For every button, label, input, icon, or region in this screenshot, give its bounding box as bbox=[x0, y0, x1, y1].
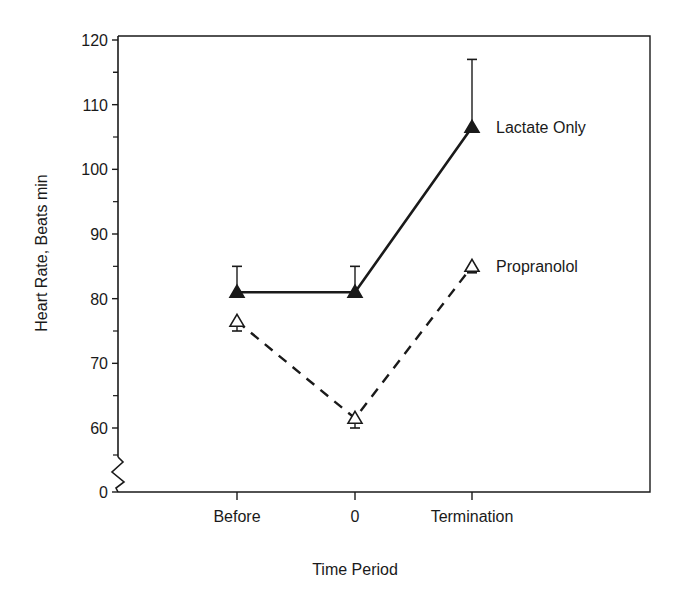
y-tick-label: 70 bbox=[90, 355, 108, 372]
x-tick-label: Termination bbox=[431, 508, 514, 525]
x-tick-label: 0 bbox=[351, 508, 360, 525]
series-propranolol: Propranolol bbox=[230, 258, 578, 428]
x-axis: Before0Termination bbox=[213, 492, 513, 525]
open-triangle-marker-icon bbox=[230, 314, 244, 326]
y-axis-title: Heart Rate, Beats min bbox=[33, 174, 50, 331]
y-tick-label: 100 bbox=[81, 161, 108, 178]
y-tick-label: 120 bbox=[81, 32, 108, 49]
y-axis: 060708090100110120 bbox=[81, 32, 118, 501]
y-tick-label: 90 bbox=[90, 226, 108, 243]
x-tick-label: Before bbox=[213, 508, 260, 525]
series-label: Lactate Only bbox=[496, 119, 586, 136]
series-label: Propranolol bbox=[496, 258, 578, 275]
open-triangle-marker-icon bbox=[465, 259, 479, 271]
x-axis-title: Time Period bbox=[312, 561, 398, 578]
y-tick-label: 60 bbox=[90, 420, 108, 437]
heart-rate-chart: 060708090100110120 Before0Termination La… bbox=[0, 0, 679, 605]
y-tick-label: 0 bbox=[99, 484, 108, 501]
y-tick-label: 110 bbox=[82, 97, 108, 114]
axis-break-icon bbox=[112, 457, 124, 492]
series-layer: Lactate OnlyPropranolol bbox=[230, 59, 586, 428]
filled-triangle-marker-icon bbox=[465, 120, 479, 132]
y-tick-label: 80 bbox=[90, 291, 108, 308]
